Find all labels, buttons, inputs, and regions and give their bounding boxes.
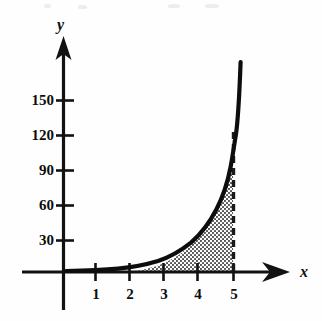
chart-figure: 150 120 90 60 30 1 2 3 4 5 y x — [0, 0, 322, 321]
x-tick-label-1: 1 — [86, 287, 106, 302]
scan-artifact — [205, 4, 219, 8]
scan-artifact — [44, 4, 51, 8]
y-tick-label-120: 120 — [16, 128, 54, 143]
y-tick-label-90: 90 — [16, 163, 54, 178]
y-tick-label-150: 150 — [16, 93, 54, 108]
x-tick-label-2: 2 — [120, 287, 140, 302]
x-tick-label-4: 4 — [188, 287, 208, 302]
y-tick-label-60: 60 — [16, 198, 54, 213]
x-tick-label-3: 3 — [154, 287, 174, 302]
x-tick-label-5: 5 — [224, 287, 244, 302]
y-tick-label-30: 30 — [16, 233, 54, 248]
y-axis-name: y — [57, 17, 64, 33]
scan-artifact — [168, 4, 180, 8]
area-under-curve — [120, 110, 245, 280]
plot-canvas — [0, 0, 322, 321]
x-axis-name: x — [300, 264, 308, 280]
scan-artifact — [78, 5, 87, 9]
